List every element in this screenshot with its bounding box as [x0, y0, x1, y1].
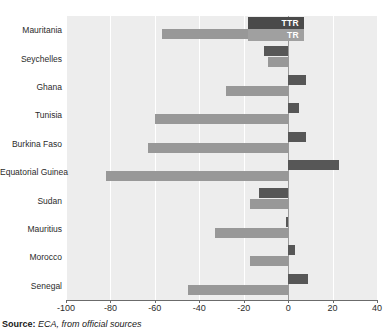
bar-ttr — [259, 188, 288, 198]
legend-label-ttr: TTR — [282, 17, 299, 29]
category-label: Mauritania — [0, 25, 62, 35]
x-tick-label: -20 — [224, 303, 264, 313]
x-tick-label: -40 — [179, 303, 219, 313]
bar-row — [66, 243, 377, 271]
category-label: Senegal — [0, 281, 62, 291]
bar-row — [66, 130, 377, 158]
bar-row — [66, 16, 377, 44]
x-tick-label: 20 — [313, 303, 353, 313]
source-text: ECA, from official sources — [38, 319, 142, 329]
category-label: Mauritius — [0, 224, 62, 234]
legend-label-tr: TR — [287, 29, 299, 41]
category-label: Sudan — [0, 196, 62, 206]
bar-tr — [250, 256, 288, 266]
category-label: Equatorial Guinea — [0, 167, 62, 177]
legend-item-tr: TR — [248, 29, 304, 41]
bar-row — [66, 272, 377, 300]
x-tick-label: 40 — [357, 303, 387, 313]
bar-row — [66, 44, 377, 72]
bar-ttr — [288, 274, 308, 284]
chart-title — [0, 0, 380, 3]
bar-tr — [250, 199, 288, 209]
category-axis-labels: MauritaniaSeychellesGhanaTunisiaBurkina … — [0, 16, 62, 300]
bar-row — [66, 101, 377, 129]
bar-ttr — [288, 160, 339, 170]
bar-tr — [188, 285, 288, 295]
bar-row — [66, 73, 377, 101]
bar-row — [66, 215, 377, 243]
x-axis: -100-80-60-40-2002040 — [66, 300, 377, 314]
category-label: Morocco — [0, 252, 62, 262]
x-tick-label: -60 — [135, 303, 175, 313]
plot-area — [66, 16, 377, 300]
bar-row — [66, 186, 377, 214]
bar-ttr — [288, 103, 299, 113]
bar-tr — [155, 114, 288, 124]
bar-ttr — [286, 217, 288, 227]
category-label: Seychelles — [0, 54, 62, 64]
bar-tr — [106, 171, 288, 181]
x-tick-label: -80 — [90, 303, 130, 313]
bar-ttr — [288, 132, 306, 142]
source-label: Source: — [2, 319, 36, 329]
category-label: Ghana — [0, 82, 62, 92]
category-label: Tunisia — [0, 110, 62, 120]
bar-ttr — [288, 245, 295, 255]
bar-ttr — [288, 75, 306, 85]
x-axis-line — [66, 300, 377, 301]
bar-tr — [215, 228, 288, 238]
chart-legend: TTR TR — [248, 17, 304, 51]
source-note: Source: ECA, from official sources — [2, 319, 142, 329]
bar-row — [66, 158, 377, 186]
bar-tr — [226, 86, 288, 96]
x-tick-label: 0 — [268, 303, 308, 313]
legend-item-ttr: TTR — [248, 17, 304, 29]
gridline-40 — [377, 16, 378, 300]
bar-tr — [148, 143, 288, 153]
bar-tr — [268, 57, 288, 67]
x-tick-label: -100 — [46, 303, 86, 313]
category-label: Burkina Faso — [0, 139, 62, 149]
